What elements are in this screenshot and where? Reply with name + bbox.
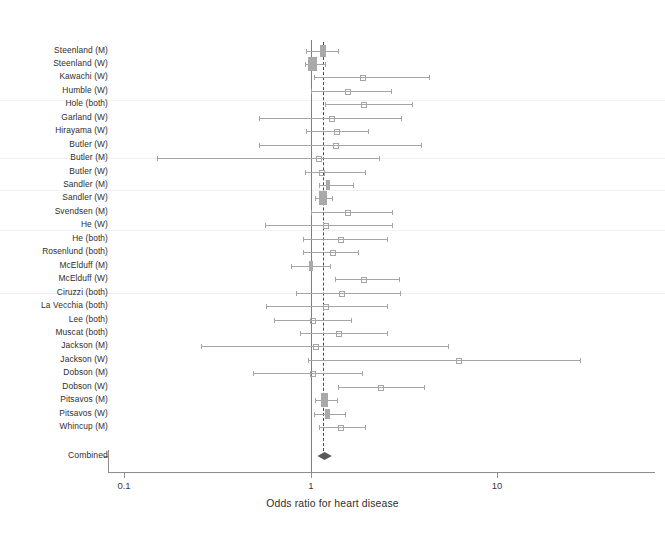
forest-plot-figure: 0.1110 Steenland (M)Steenland (W)Kawachi… (0, 0, 665, 542)
study-24-ci-line (253, 373, 362, 374)
study-23-estimate-marker (456, 358, 462, 364)
study-11-ci-upper-cap (332, 196, 333, 201)
study-26-ci-upper-cap (337, 398, 338, 403)
study-label: Svendsen (M) (0, 206, 108, 216)
study-8-ci-lower-cap (157, 156, 158, 161)
study-24-ci-upper-cap (362, 371, 363, 376)
study-label: Ciruzzi (both) (0, 287, 108, 297)
study-15-estimate-marker (330, 250, 336, 256)
study-label: Sandler (W) (0, 192, 108, 202)
study-label: Muscat (both) (0, 327, 108, 337)
study-label: McElduff (W) (0, 273, 108, 283)
study-25-ci-upper-cap (424, 385, 425, 390)
study-21-estimate-marker (336, 331, 342, 337)
study-label: McElduff (M) (0, 260, 108, 270)
study-17-ci-upper-cap (399, 277, 400, 282)
study-23-ci-upper-cap (580, 358, 581, 363)
study-14-ci-line (303, 239, 387, 240)
x-axis-tick (311, 473, 312, 478)
study-8-ci-upper-cap (379, 156, 380, 161)
study-16-ci-lower-cap (291, 264, 292, 269)
study-4-estimate-marker (361, 102, 367, 108)
study-4-ci-upper-cap (412, 102, 413, 107)
study-13-estimate-marker (323, 223, 329, 229)
study-2-ci-line (314, 77, 428, 78)
study-label: Dobson (W) (0, 381, 108, 391)
study-9-ci-line (305, 172, 364, 173)
study-8-estimate-marker (316, 156, 322, 162)
study-11-estimate-box (319, 191, 328, 205)
study-12-estimate-marker (345, 210, 351, 216)
study-10-ci-line (319, 185, 353, 186)
study-10-ci-upper-cap (353, 183, 354, 188)
study-8-ci-line (157, 158, 379, 159)
study-22-ci-line (201, 346, 447, 347)
study-10-ci-lower-cap (319, 183, 320, 188)
x-axis-tick (124, 473, 125, 478)
study-7-estimate-marker (333, 143, 339, 149)
study-2-estimate-marker (360, 75, 366, 81)
study-4-ci-lower-cap (325, 102, 326, 107)
study-1-estimate-box (308, 57, 317, 71)
study-21-ci-lower-cap (300, 331, 301, 336)
study-label: Dobson (M) (0, 367, 108, 377)
study-label: Pitsavos (W) (0, 408, 108, 418)
study-16-estimate-box (309, 261, 313, 270)
study-28-ci-upper-cap (365, 425, 366, 430)
study-7-ci-lower-cap (259, 143, 260, 148)
study-27-ci-lower-cap (314, 412, 315, 417)
study-label: Jackson (W) (0, 354, 108, 364)
study-28-ci-lower-cap (319, 425, 320, 430)
study-label: Butler (W) (0, 139, 108, 149)
study-1-ci-upper-cap (325, 62, 326, 67)
study-label: Sandler (M) (0, 179, 108, 189)
study-18-ci-lower-cap (296, 291, 297, 296)
study-label: Steenland (M) (0, 45, 108, 55)
study-0-estimate-box (320, 45, 326, 57)
study-17-estimate-marker (361, 277, 367, 283)
study-24-estimate-marker (310, 371, 316, 377)
study-25-ci-lower-cap (338, 385, 339, 390)
study-12-ci-upper-cap (392, 210, 393, 215)
x-axis-tick-label: 0.1 (117, 480, 130, 491)
x-axis-line (108, 472, 655, 473)
study-label: Butler (W) (0, 166, 108, 176)
study-20-ci-upper-cap (351, 318, 352, 323)
study-label: Steenland (W) (0, 58, 108, 68)
study-18-ci-line (296, 293, 400, 294)
study-5-ci-lower-cap (259, 116, 260, 121)
study-2-ci-upper-cap (429, 75, 430, 80)
study-12-ci-line (311, 212, 393, 213)
study-3-estimate-marker (345, 89, 351, 95)
study-10-estimate-box (326, 180, 331, 190)
study-27-estimate-box (325, 409, 330, 420)
study-6-estimate-marker (334, 129, 340, 135)
study-4-ci-line (325, 104, 411, 105)
study-2-ci-lower-cap (314, 75, 315, 80)
study-27-ci-upper-cap (345, 412, 346, 417)
study-28-estimate-marker (338, 425, 344, 431)
study-21-ci-upper-cap (387, 331, 388, 336)
study-26-ci-lower-cap (315, 398, 316, 403)
study-12-ci-lower-cap (311, 210, 312, 215)
study-7-ci-upper-cap (421, 143, 422, 148)
study-18-ci-upper-cap (400, 291, 401, 296)
x-axis-tick (497, 473, 498, 478)
study-24-ci-lower-cap (253, 371, 254, 376)
study-18-estimate-marker (339, 291, 345, 297)
study-16-ci-upper-cap (330, 264, 331, 269)
study-6-ci-lower-cap (306, 129, 307, 134)
study-label: Pitsavos (M) (0, 394, 108, 404)
study-25-estimate-marker (378, 385, 384, 391)
x-axis-tick-label: 1 (308, 480, 313, 491)
study-26-estimate-box (321, 393, 328, 406)
study-22-ci-lower-cap (201, 344, 202, 349)
study-label: Rosenlund (both) (0, 246, 108, 256)
study-14-estimate-marker (338, 237, 344, 243)
study-13-ci-lower-cap (265, 223, 266, 228)
study-label: La Vecchia (both) (0, 300, 108, 310)
study-label: Jackson (M) (0, 340, 108, 350)
study-label: Kawachi (W) (0, 71, 108, 81)
study-9-ci-lower-cap (305, 170, 306, 175)
y-axis-line (108, 450, 109, 472)
